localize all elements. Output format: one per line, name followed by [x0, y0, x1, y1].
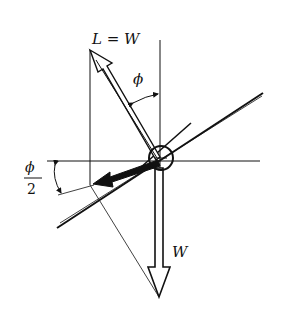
- banked-turn-diagram: L = W ϕ ϕ 2 W: [0, 0, 283, 317]
- half-angle-reference-line: [58, 185, 94, 195]
- half-angle-denominator: 2: [27, 181, 36, 197]
- weight-arrow: [148, 168, 170, 297]
- resultant-diagonal-line: [90, 185, 159, 297]
- half-angle-numerator: ϕ: [25, 159, 35, 175]
- lift-label: L = W: [91, 30, 141, 48]
- half-angle-indicator: [54, 165, 61, 193]
- weight-label: W: [172, 243, 189, 261]
- bank-angle-indicator: [133, 94, 158, 103]
- bank-angle-label: ϕ: [133, 70, 143, 88]
- lift-arrow: [90, 50, 160, 160]
